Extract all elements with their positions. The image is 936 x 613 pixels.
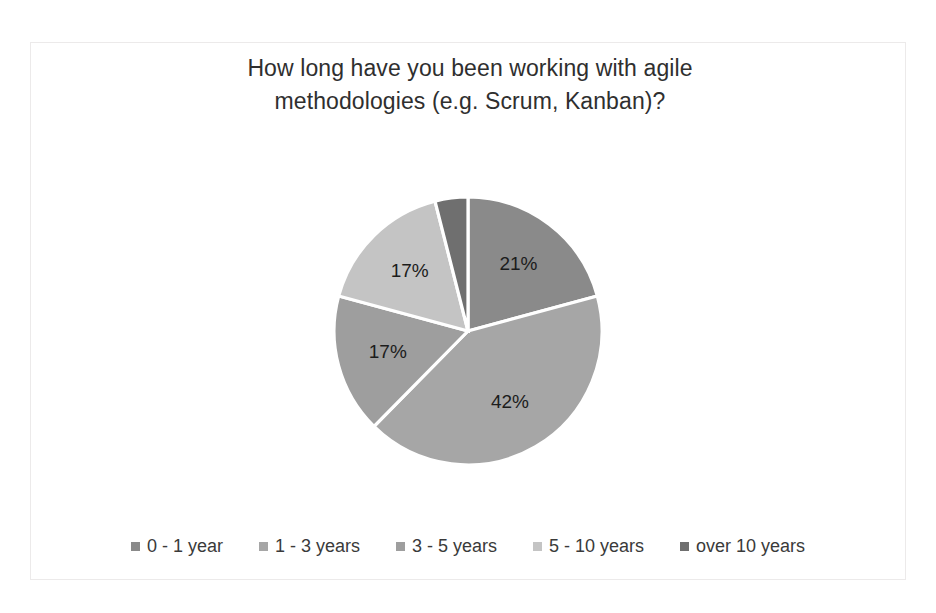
pie-slice-value-label: 21% (499, 253, 537, 274)
legend-item[interactable]: 0 - 1 year (131, 536, 223, 556)
chart-title-line-1: How long have you been working with agil… (120, 52, 820, 85)
legend-swatch-icon (131, 542, 140, 551)
pie-slice-value-label: 17% (369, 341, 407, 362)
legend-item-label: 3 - 5 years (412, 536, 497, 556)
legend-item-label: over 10 years (696, 536, 805, 556)
legend-item[interactable]: over 10 years (680, 536, 805, 556)
pie-slice-value-label: 42% (491, 391, 529, 412)
legend-item-label: 0 - 1 year (147, 536, 223, 556)
legend-swatch-icon (680, 542, 689, 551)
pie-slice-group (334, 197, 602, 465)
legend-item[interactable]: 1 - 3 years (259, 536, 360, 556)
legend-item[interactable]: 5 - 10 years (533, 536, 644, 556)
legend-item[interactable]: 3 - 5 years (396, 536, 497, 556)
chart-legend: 0 - 1 year1 - 3 years3 - 5 years5 - 10 y… (30, 536, 906, 556)
chart-container: How long have you been working with agil… (0, 0, 936, 613)
pie-chart: 21%42%17%17%4% (333, 196, 603, 466)
legend-swatch-icon (396, 542, 405, 551)
pie-slice-value-label: 17% (391, 260, 429, 281)
legend-item-label: 1 - 3 years (275, 536, 360, 556)
chart-title-line-2: methodologies (e.g. Scrum, Kanban)? (120, 85, 820, 118)
legend-swatch-icon (533, 542, 542, 551)
legend-swatch-icon (259, 542, 268, 551)
pie-chart-svg: 21%42%17%17%4% (333, 196, 603, 466)
legend-item-label: 5 - 10 years (549, 536, 644, 556)
chart-title: How long have you been working with agil… (120, 52, 820, 118)
